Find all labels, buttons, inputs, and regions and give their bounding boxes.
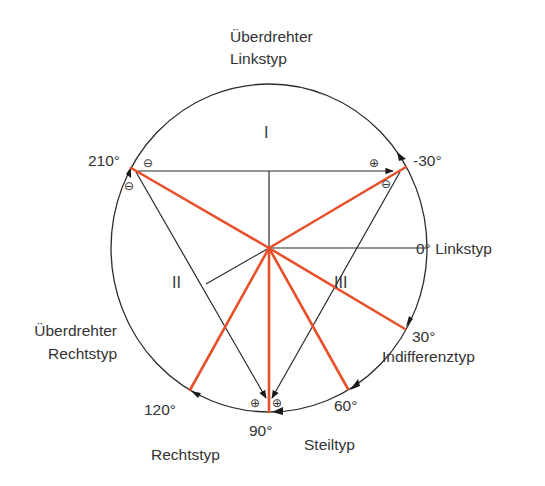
angle-60-label: 60° — [334, 397, 357, 414]
polarity-minus-minus30-bottom: ⊖ — [381, 177, 391, 191]
lead-II-line — [136, 172, 266, 398]
lead-I-label: I — [264, 124, 268, 141]
polarity-minus-210-top: ⊖ — [143, 156, 153, 170]
label-ueberdrehter-rechtstyp-line2: Rechtstyp — [48, 345, 117, 362]
arrow-minus30-icon — [397, 152, 406, 161]
angle-90-label: 90° — [249, 422, 272, 439]
angle-210-label: 210° — [88, 152, 120, 169]
label-steiltyp: Steiltyp — [304, 436, 355, 453]
vector-120 — [190, 248, 269, 390]
label-indifferenztyp: Indifferenztyp — [382, 348, 475, 365]
label-rechtstyp: Rechtstyp — [151, 446, 220, 463]
label-ueberdrehter-linkstyp-line2: Linkstyp — [230, 50, 287, 67]
angle-minus30-label: -30° — [413, 152, 442, 169]
vector-210 — [131, 168, 269, 248]
angle-120-label: 120° — [144, 401, 176, 418]
label-linkstyp: 0° Linkstyp — [416, 240, 492, 257]
label-ueberdrehter-rechtstyp-line1: Überdrehter — [34, 322, 117, 339]
polarity-plus-minus30-top: ⊕ — [369, 156, 379, 170]
lead-II-label: II — [172, 274, 181, 291]
polarity-minus-210-bottom: ⊖ — [124, 179, 134, 193]
lead-III-label: III — [334, 274, 347, 291]
arrow-120-icon — [191, 391, 201, 398]
arrow-60-icon — [350, 379, 360, 390]
cabrera-circle-diagram: ⊖ ⊖ ⊕ ⊖ ⊕ ⊕ I II III 210° -30° 30° 60° 9… — [0, 0, 545, 486]
label-ueberdrehter-linkstyp-line1: Überdrehter — [230, 28, 313, 45]
angle-30-label: 30° — [412, 328, 435, 345]
polarity-plus-90-right: ⊕ — [272, 396, 282, 410]
polarity-plus-90-left: ⊕ — [250, 396, 260, 410]
vector-60 — [269, 248, 348, 389]
